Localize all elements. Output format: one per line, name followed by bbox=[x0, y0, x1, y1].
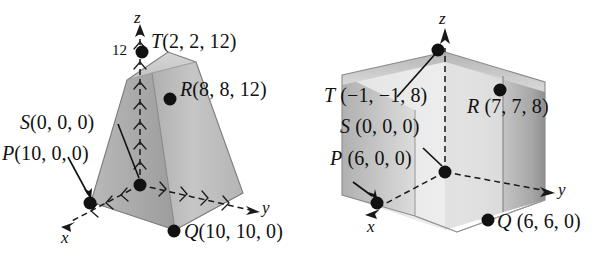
point-label-T: T (−1, −1, 8) bbox=[324, 85, 427, 105]
z-axis-arrowhead bbox=[440, 28, 450, 44]
point-label-Q: Q (6, 6, 0) bbox=[497, 211, 581, 231]
point-letter-T: T bbox=[324, 84, 335, 106]
point-label-S: S(0, 0, 0) bbox=[20, 112, 94, 132]
point-P[interactable] bbox=[371, 197, 384, 210]
axis-label-z: z bbox=[134, 9, 141, 26]
point-letter-Q: Q bbox=[497, 210, 512, 232]
point-T[interactable] bbox=[136, 46, 149, 59]
y-axis-arrowhead bbox=[246, 206, 260, 215]
axis-label-x: x bbox=[61, 229, 69, 246]
axis-label-z: z bbox=[439, 10, 446, 27]
point-letter-P: P bbox=[330, 147, 342, 169]
point-label-P: P (6, 0, 0) bbox=[330, 148, 412, 168]
z-tick-label-12: 12 bbox=[112, 43, 127, 58]
point-letter-S: S bbox=[20, 111, 30, 133]
point-coords-R: (7, 7, 8) bbox=[484, 95, 548, 117]
point-label-T: T(2, 2, 12) bbox=[151, 31, 237, 51]
point-label-R: R(8, 8, 12) bbox=[180, 79, 267, 99]
figure-pair-canvas: T(2, 2, 12) R(8, 8, 12) S(0, 0, 0) P(10,… bbox=[0, 0, 597, 259]
point-S[interactable] bbox=[439, 166, 452, 179]
point-label-P: P(10, 0, 0) bbox=[2, 143, 89, 163]
point-coords-Q: (10, 10, 0) bbox=[199, 220, 283, 242]
point-Q[interactable] bbox=[482, 214, 495, 227]
point-label-Q: Q(10, 10, 0) bbox=[184, 221, 283, 241]
point-S[interactable] bbox=[134, 179, 147, 192]
point-R[interactable] bbox=[164, 93, 177, 106]
figure-left-frustum: T(2, 2, 12) R(8, 8, 12) S(0, 0, 0) P(10,… bbox=[0, 0, 300, 259]
figure-right-frustum: T (−1, −1, 8) R (7, 7, 8) S (0, 0, 0) P … bbox=[297, 0, 597, 259]
point-letter-Q: Q bbox=[184, 220, 199, 242]
point-coords-P: (6, 0, 0) bbox=[347, 147, 411, 169]
point-P[interactable] bbox=[84, 197, 97, 210]
point-coords-S: (0, 0, 0) bbox=[30, 111, 94, 133]
point-coords-T: (2, 2, 12) bbox=[162, 30, 236, 52]
axis-label-x: x bbox=[367, 218, 375, 235]
point-label-S: S (0, 0, 0) bbox=[340, 116, 419, 136]
point-letter-S: S bbox=[340, 115, 350, 137]
axis-label-y: y bbox=[262, 199, 270, 216]
point-coords-S: (0, 0, 0) bbox=[355, 115, 419, 137]
point-coords-Q: (6, 6, 0) bbox=[517, 210, 581, 232]
point-letter-P: P bbox=[2, 142, 14, 164]
point-coords-T: (−1, −1, 8) bbox=[340, 84, 427, 106]
point-Q[interactable] bbox=[168, 225, 181, 238]
point-label-R: R (7, 7, 8) bbox=[467, 96, 549, 116]
point-letter-R: R bbox=[180, 78, 192, 100]
point-coords-R: (8, 8, 12) bbox=[192, 78, 266, 100]
axis-label-y: y bbox=[558, 181, 566, 198]
point-T[interactable] bbox=[432, 44, 445, 57]
point-coords-P: (10, 0, 0) bbox=[14, 142, 88, 164]
point-letter-T: T bbox=[151, 30, 162, 52]
point-letter-R: R bbox=[467, 95, 479, 117]
